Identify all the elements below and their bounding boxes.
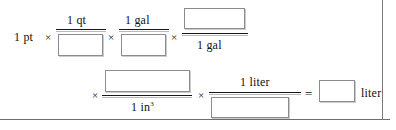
fraction-5-denominator-blank[interactable]: [211, 97, 289, 118]
fraction-1-bar: [56, 29, 106, 30]
fraction-1-denominator-blank[interactable]: [58, 34, 103, 56]
fraction-1-numerator-label: 1 qt: [67, 14, 86, 26]
fraction-4-denominator-exponent: 3: [150, 100, 154, 108]
worksheet-sheet: 1 pt × 1 qt × 1 gal × 1 gal × 1 in3 × 1 …: [0, 0, 396, 130]
multiply-operator-2: ×: [108, 32, 114, 43]
frame-right-rule: [382, 0, 383, 120]
multiply-operator-1: ×: [45, 32, 51, 43]
result-unit-label: liter: [361, 87, 381, 99]
fraction-3-numerator-blank[interactable]: [184, 8, 245, 29]
start-term-label: 1 pt: [14, 31, 33, 43]
fraction-5-numerator-label: 1 liter: [240, 76, 270, 88]
fraction-4-denominator-base: 1 in: [131, 100, 150, 114]
equals-operator: =: [305, 87, 312, 100]
multiply-operator-5: ×: [198, 90, 204, 101]
fraction-5-bar: [209, 92, 301, 93]
fraction-3-denominator-label: 1 gal: [197, 39, 222, 51]
multiply-operator-3: ×: [171, 32, 177, 43]
multiply-operator-4: ×: [92, 90, 98, 101]
fraction-4-bar: [102, 95, 192, 96]
fraction-4-denominator-label: 1 in3: [131, 101, 154, 113]
fraction-3-bar: [182, 33, 248, 34]
fraction-2-numerator-label: 1 gal: [125, 14, 150, 26]
frame-bottom-rule: [0, 119, 390, 120]
fraction-4-numerator-blank[interactable]: [105, 70, 190, 92]
fraction-2-bar: [119, 29, 169, 30]
result-value-blank[interactable]: [319, 80, 355, 102]
fraction-2-denominator-blank[interactable]: [121, 34, 166, 56]
